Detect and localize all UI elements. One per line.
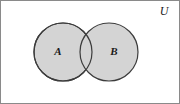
set-b-label: B xyxy=(109,45,117,57)
set-b-circle xyxy=(80,23,138,81)
set-a-label: A xyxy=(53,45,61,57)
venn-diagram-figure: A B U xyxy=(0,0,180,104)
venn-diagram-canvas: A B U xyxy=(1,1,180,104)
universe-label: U xyxy=(160,4,170,18)
